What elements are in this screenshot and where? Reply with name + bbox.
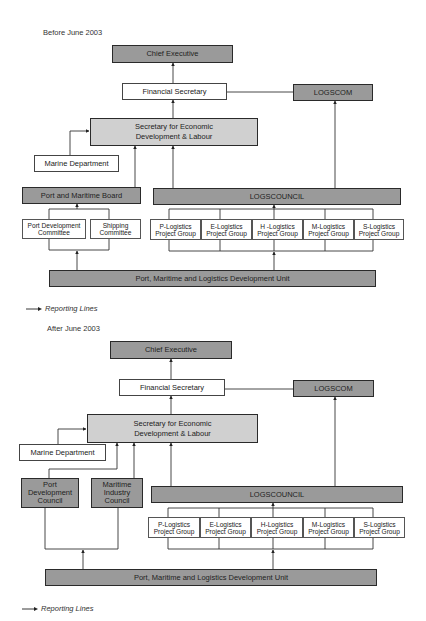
before-pmldu: Port, Maritime and Logistics Development… bbox=[49, 270, 376, 287]
before-logscom-label: LOGSCOM bbox=[314, 89, 352, 97]
before-port-maritime-board: Port and Maritime Board bbox=[22, 187, 141, 204]
before-chief-executive: Chief Executive bbox=[112, 45, 233, 63]
after-secretary-econ-dev-labour: Secretary for Economic Development & Lab… bbox=[87, 414, 258, 443]
after-project-group-e: E-Logistics Project Group bbox=[200, 517, 251, 538]
before-secretary-label: Secretary for Economic Development & Lab… bbox=[135, 122, 213, 142]
before-logscouncil: LOGSCOUNCIL bbox=[153, 188, 401, 205]
arrow-right-icon bbox=[22, 606, 38, 612]
before-project-group-s: S-Logistics Project Group bbox=[354, 219, 404, 240]
before-project-group-h: H -Logistics Project Group bbox=[252, 219, 303, 240]
before-marine-department-label: Marine Department bbox=[44, 160, 108, 168]
after-pmldu-label: Port, Maritime and Logistics Development… bbox=[134, 574, 288, 582]
before-marine-department: Marine Department bbox=[34, 155, 119, 172]
after-chief-executive: Chief Executive bbox=[110, 341, 232, 359]
after-marine-department: Marine Department bbox=[19, 444, 106, 461]
after-project-group-h: H-Logistics Project Group bbox=[251, 517, 303, 538]
before-project-group-p: P-Logistics Project Group bbox=[150, 219, 201, 240]
after-pmldu: Port, Maritime and Logistics Development… bbox=[45, 569, 377, 586]
after-logscom-label: LOGSCOM bbox=[314, 385, 352, 393]
after-logscouncil: LOGSCOUNCIL bbox=[151, 486, 403, 503]
before-port-maritime-board-label: Port and Maritime Board bbox=[41, 192, 122, 200]
after-port-development-council: Port Development Council bbox=[21, 478, 79, 508]
before-port-development-committee: Port Development Committee bbox=[22, 219, 86, 239]
before-logscouncil-label: LOGSCOUNCIL bbox=[250, 193, 305, 201]
after-port-development-council-label: Port Development Council bbox=[28, 481, 72, 505]
after-financial-secretary: Financial Secretary bbox=[119, 379, 225, 396]
before-legend-label: Reporting Lines bbox=[45, 304, 98, 313]
before-project-group-label: E-Logistics Project Group bbox=[206, 223, 247, 237]
before-logscom: LOGSCOM bbox=[293, 84, 373, 101]
after-marine-department-label: Marine Department bbox=[30, 449, 94, 457]
before-project-group-e: E-Logistics Project Group bbox=[201, 219, 252, 240]
before-caption: Before June 2003 bbox=[43, 28, 102, 37]
before-project-group-label: M-Logistics Project Group bbox=[308, 223, 349, 237]
after-financial-secretary-label: Financial Secretary bbox=[140, 384, 204, 392]
after-chief-executive-label: Chief Executive bbox=[145, 346, 197, 354]
before-project-group-m: M-Logistics Project Group bbox=[303, 219, 354, 240]
before-project-group-label: P-Logistics Project Group bbox=[155, 223, 196, 237]
after-caption: After June 2003 bbox=[47, 324, 100, 333]
after-legend-label: Reporting Lines bbox=[41, 604, 94, 613]
after-maritime-industry-council: Maritime Industry Council bbox=[91, 478, 143, 508]
before-legend: Reporting Lines bbox=[26, 304, 98, 313]
after-project-group-label: P-Logistics Project Group bbox=[154, 521, 195, 535]
after-project-group-label: S-Logistics Project Group bbox=[359, 521, 400, 535]
after-project-group-s: S-Logistics Project Group bbox=[354, 517, 405, 538]
before-project-group-label: H -Logistics Project Group bbox=[257, 223, 298, 237]
after-project-group-label: M-Logistics Project Group bbox=[308, 521, 349, 535]
before-shipping-committee: Shipping Committee bbox=[90, 219, 141, 239]
before-pmldu-label: Port, Maritime and Logistics Development… bbox=[135, 275, 289, 283]
after-project-group-label: H-Logistics Project Group bbox=[257, 521, 298, 535]
before-financial-secretary: Financial Secretary bbox=[122, 83, 227, 100]
after-project-group-m: M-Logistics Project Group bbox=[303, 517, 354, 538]
after-maritime-industry-council-label: Maritime Industry Council bbox=[103, 481, 132, 505]
arrow-right-icon bbox=[26, 306, 42, 312]
before-shipping-committee-label: Shipping Committee bbox=[100, 222, 132, 236]
before-financial-secretary-label: Financial Secretary bbox=[142, 88, 206, 96]
before-project-group-label: S-Logistics Project Group bbox=[359, 223, 400, 237]
before-port-development-committee-label: Port Development Committee bbox=[28, 222, 81, 236]
before-chief-executive-label: Chief Executive bbox=[146, 50, 198, 58]
before-secretary-econ-dev-labour: Secretary for Economic Development & Lab… bbox=[90, 118, 258, 146]
after-logscouncil-label: LOGSCOUNCIL bbox=[250, 491, 305, 499]
after-legend: Reporting Lines bbox=[22, 604, 94, 613]
after-project-group-label: E-Logistics Project Group bbox=[205, 521, 246, 535]
after-logscom: LOGSCOM bbox=[293, 380, 374, 397]
after-project-group-p: P-Logistics Project Group bbox=[148, 517, 200, 538]
after-secretary-label: Secretary for Economic Development & Lab… bbox=[134, 419, 212, 439]
